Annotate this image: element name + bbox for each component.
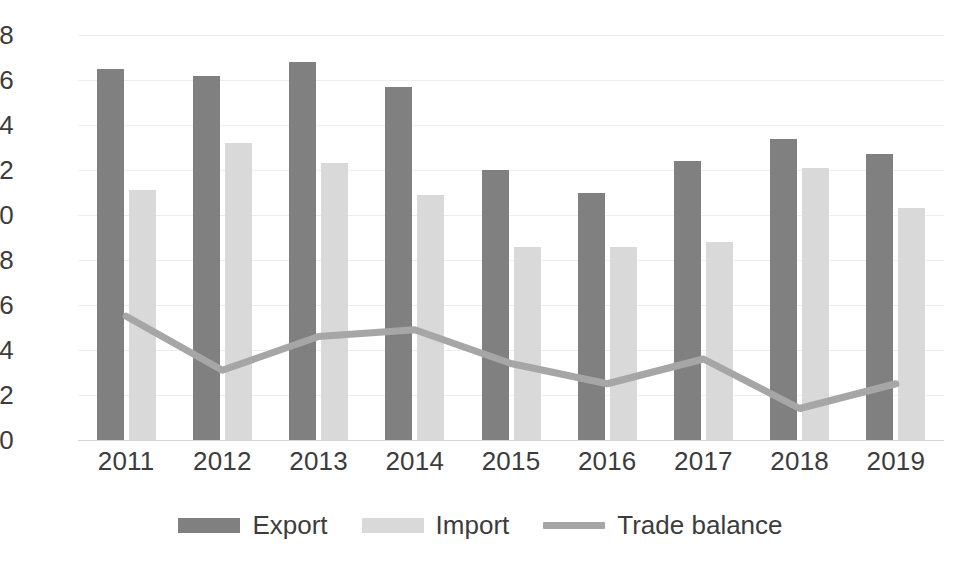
y-tick-10: 10 [0, 202, 14, 228]
bar-export-2012 [193, 76, 220, 441]
plot-area [78, 35, 944, 440]
y-tick-0: 0 [0, 427, 14, 453]
x-tick-2014: 2014 [367, 448, 463, 474]
bar-import-2014 [417, 195, 444, 440]
bar-import-2015 [514, 247, 541, 441]
trade-bar-line-chart: 181614121086420 201120122013201420152016… [0, 0, 961, 579]
x-tick-2019: 2019 [848, 448, 944, 474]
bar-export-2011 [97, 69, 124, 440]
bar-swatch-export-icon [178, 518, 240, 533]
bar-export-2014 [385, 87, 412, 440]
y-tick-8: 8 [0, 247, 14, 273]
y-tick-14: 14 [0, 112, 14, 138]
bar-import-2019 [898, 208, 925, 440]
bar-export-2013 [289, 62, 316, 440]
bar-import-2016 [610, 247, 637, 441]
bar-import-2013 [321, 163, 348, 440]
legend-item-export: Export [178, 512, 327, 538]
bar-import-2017 [706, 242, 733, 440]
bar-export-2018 [770, 139, 797, 441]
chart-legend: Export Import Trade balance [0, 512, 961, 538]
bar-import-2011 [129, 190, 156, 440]
bar-swatch-import-icon [362, 518, 424, 533]
x-tick-2015: 2015 [463, 448, 559, 474]
legend-label-trade-balance: Trade balance [617, 512, 782, 538]
bar-import-2012 [225, 143, 252, 440]
legend-item-import: Import [362, 512, 510, 538]
bar-import-2018 [802, 168, 829, 440]
line-swatch-trade-balance-icon [543, 522, 605, 529]
y-tick-4: 4 [0, 337, 14, 363]
legend-label-export: Export [252, 512, 327, 538]
bar-export-2019 [866, 154, 893, 440]
y-tick-18: 18 [0, 22, 14, 48]
bar-export-2015 [482, 170, 509, 440]
y-tick-16: 16 [0, 67, 14, 93]
x-tick-2017: 2017 [655, 448, 751, 474]
x-tick-2018: 2018 [752, 448, 848, 474]
x-tick-2011: 2011 [78, 448, 174, 474]
x-tick-2013: 2013 [270, 448, 366, 474]
bar-export-2016 [578, 193, 605, 441]
legend-label-import: Import [436, 512, 510, 538]
y-tick-12: 12 [0, 157, 14, 183]
bar-export-2017 [674, 161, 701, 440]
y-tick-6: 6 [0, 292, 14, 318]
legend-item-trade-balance: Trade balance [543, 512, 782, 538]
gridline-18 [78, 35, 944, 36]
x-tick-2016: 2016 [559, 448, 655, 474]
x-tick-2012: 2012 [174, 448, 270, 474]
y-tick-2: 2 [0, 382, 14, 408]
gridline-0 [78, 440, 944, 441]
